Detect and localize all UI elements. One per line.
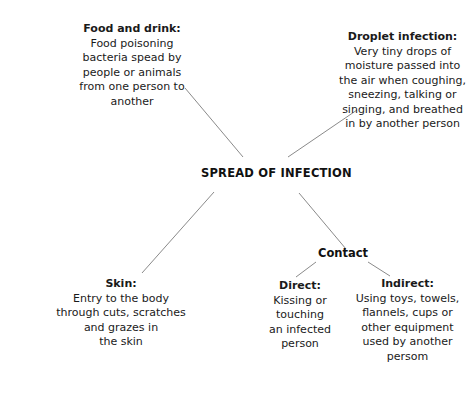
infection-spread-diagram: Food and drink: Food poisoning bacteria … — [0, 0, 473, 393]
connector-contact-to-direct — [296, 262, 316, 277]
connector-center-to-contact — [299, 193, 346, 249]
node-direct-title: Direct: — [252, 279, 348, 294]
node-direct-body: Kissing or touching an infected person — [252, 294, 348, 352]
node-indirect-title: Indirect: — [342, 277, 473, 292]
node-food-and-drink-body: Food poisoning bacteria spead by people … — [52, 37, 212, 110]
node-droplet-infection: Droplet infection: Very tiny drops of mo… — [332, 30, 473, 132]
node-food-and-drink: Food and drink: Food poisoning bacteria … — [52, 22, 212, 109]
node-skin: Skin: Entry to the body through cuts, sc… — [42, 277, 200, 350]
node-indirect-body: Using toys, towels, flannels, cups or ot… — [342, 292, 473, 365]
node-food-and-drink-title: Food and drink: — [52, 22, 212, 37]
connector-center-to-skin — [142, 192, 214, 273]
node-droplet-infection-title: Droplet infection: — [332, 30, 473, 45]
node-skin-title: Skin: — [42, 277, 200, 292]
node-skin-body: Entry to the body through cuts, scratche… — [42, 292, 200, 350]
node-indirect: Indirect: Using toys, towels, flannels, … — [342, 277, 473, 364]
center-label-spread-of-infection: SPREAD OF INFECTION — [201, 166, 352, 180]
branch-label-contact: Contact — [318, 246, 368, 260]
node-direct: Direct: Kissing or touching an infected … — [252, 279, 348, 352]
node-droplet-infection-body: Very tiny drops of moisture passed into … — [332, 45, 473, 132]
connector-contact-to-indirect — [368, 262, 390, 276]
